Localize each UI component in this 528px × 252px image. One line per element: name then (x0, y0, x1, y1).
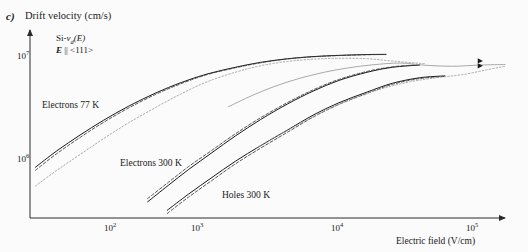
curve-electrons-300-k-model-a-dashed (148, 65, 420, 199)
x-tick-label-1e3: 103 (191, 221, 203, 233)
x-tick-mantissa: 10 (104, 223, 113, 233)
panel-letter: c) (6, 10, 15, 23)
drift-velocity-figure: c) Drift velocity (cm/s) Electric field … (0, 0, 528, 252)
curve-electrons-300-k-model-b-light (228, 63, 505, 107)
annotation-direction: || <111> (62, 45, 93, 55)
saturation-markers-group (478, 58, 483, 68)
x-tick-exponent: 4 (340, 221, 343, 228)
annotation-si-prefix: Si- (56, 33, 67, 43)
curves-group (35, 54, 505, 213)
x-tick-exponent: 3 (200, 221, 203, 228)
x-tick-exponent: 2 (113, 221, 116, 228)
curve-label-electrons-300k: Electrons 300 K (120, 158, 182, 169)
curve-holes-300-k-model-b-light (256, 66, 505, 148)
curve-label-holes-300k: Holes 300 K (222, 190, 270, 201)
curve-electrons-77-k-model-a-dashed (35, 55, 385, 171)
y-tick-mantissa: 10 (17, 51, 26, 61)
curve-holes-300-k (167, 76, 445, 210)
curve-label-electrons-77k: Electrons 77 K (42, 100, 99, 111)
curve-electrons-77-k-model-b-dotted-light (35, 58, 425, 186)
y-tick-label-1e6: 106 (17, 152, 29, 164)
plot-annotation: Si-vd(E) E || <111> (56, 33, 93, 56)
saturation-marker-lower (478, 63, 483, 68)
annotation-line-orientation: E || <111> (56, 45, 93, 55)
x-tick-label-1e4: 104 (331, 221, 343, 233)
curve-electrons-300-k (148, 65, 420, 202)
y-tick-mantissa: 10 (17, 154, 26, 164)
curve-holes-300-k-model-a-dashed (167, 76, 445, 213)
y-axis-title: Drift velocity (cm/s) (25, 10, 111, 22)
x-tick-exponent: 5 (475, 221, 478, 228)
annotation-line-material: Si-vd(E) (56, 33, 93, 45)
x-tick-mantissa: 10 (191, 223, 200, 233)
y-tick-exponent: 6 (26, 152, 29, 159)
x-tick-label-1e2: 102 (104, 221, 116, 233)
x-tick-label-1e5: 105 (466, 221, 478, 233)
y-tick-exponent: 7 (26, 49, 29, 56)
x-tick-mantissa: 10 (331, 223, 340, 233)
annotation-e-argument: (E) (74, 33, 86, 43)
x-tick-mantissa: 10 (466, 223, 475, 233)
saturation-marker-upper (478, 58, 483, 63)
y-tick-label-1e7: 107 (17, 49, 29, 61)
x-axis-title: Electric field (V/cm) (396, 236, 475, 247)
